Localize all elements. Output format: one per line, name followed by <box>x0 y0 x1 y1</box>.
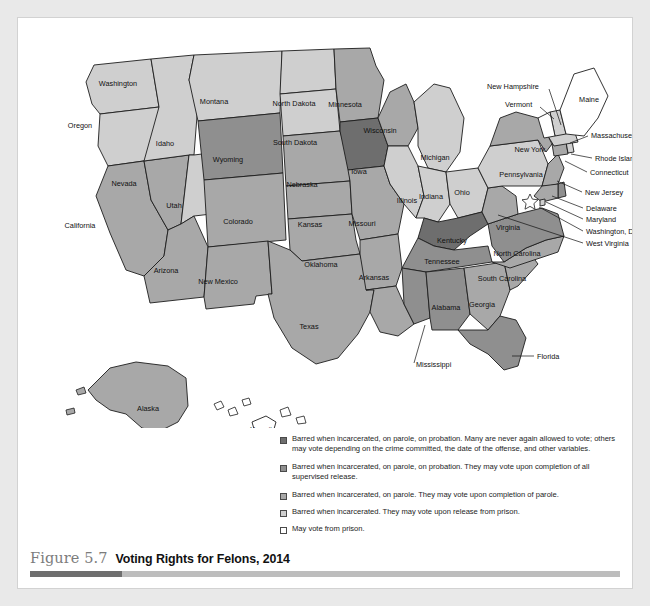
map-label-south-carolina: South Carolina <box>478 274 527 283</box>
map-label-alaska: Alaska <box>137 404 160 413</box>
state-wyoming[interactable] <box>198 113 283 180</box>
state-minnesota[interactable] <box>334 48 384 122</box>
figure-title: Voting Rights for Felons, 2014 <box>116 552 290 566</box>
map-label-wisconsin: Wisconsin <box>363 126 396 135</box>
map-label-vermont: Vermont <box>505 100 532 109</box>
map-label-new-hampshire: New Hampshire <box>487 82 539 91</box>
legend-label: Barred when incarcerated. They may vote … <box>292 507 520 517</box>
map-label-utah: Utah <box>166 201 181 210</box>
map-label-nevada: Nevada <box>111 179 137 188</box>
map-label-washington: Washington <box>99 79 137 88</box>
state-north-dakota[interactable] <box>280 49 336 94</box>
map-label-massachusetts: Massachusetts <box>591 131 632 140</box>
map-label-north-carolina: North Carolina <box>493 249 541 258</box>
leader-line <box>552 196 583 208</box>
state-maryland[interactable] <box>534 184 558 202</box>
hawaiian-island <box>280 407 291 417</box>
map-label-iowa: Iowa <box>351 167 367 176</box>
us-choropleth-map: WashingtonOregonIdahoMontanaNevadaUtahCa… <box>18 18 632 428</box>
aleutian-island <box>76 387 86 395</box>
map-label-maryland: Maryland <box>586 215 616 224</box>
map-label-rhode-island: Rhode Island <box>595 154 632 163</box>
map-label-nebraska: Nebraska <box>286 180 318 189</box>
leader-line <box>565 161 587 172</box>
state-montana[interactable] <box>189 51 282 121</box>
map-label-washington-d-c: Washington, D.C. <box>586 227 632 236</box>
map-label-michigan: Michigan <box>420 153 449 162</box>
map-label-ohio: Ohio <box>454 188 469 197</box>
caption-rule-dark-segment <box>30 571 122 577</box>
map-label-arkansas: Arkansas <box>359 273 390 282</box>
leader-line <box>571 154 592 158</box>
caption-rule-light-segment <box>122 571 620 577</box>
figure-caption-block: Figure 5.7 Voting Rights for Felons, 201… <box>18 540 632 588</box>
map-label-tennessee: Tennessee <box>424 257 459 266</box>
figure-card: WashingtonOregonIdahoMontanaNevadaUtahCa… <box>17 17 633 589</box>
map-label-mississippi: Mississippi <box>416 360 452 369</box>
hawaiian-island <box>214 401 224 410</box>
legend-swatch <box>280 527 287 534</box>
map-label-west-virginia: West Virginia <box>586 239 630 248</box>
map-label-connecticut: Connecticut <box>590 168 629 177</box>
legend-item: Barred when incarcerated, on parole. The… <box>280 490 625 500</box>
legend-item: Barred when incarcerated. They may vote … <box>280 507 625 517</box>
map-label-indiana: Indiana <box>419 192 444 201</box>
legend-swatch <box>280 493 287 500</box>
map-label-oklahoma: Oklahoma <box>304 260 338 269</box>
hawaiian-island <box>296 416 306 424</box>
legend-label: Barred when incarcerated, on parole, on … <box>292 434 625 455</box>
legend-item: Barred when incarcerated, on parole, on … <box>280 434 625 455</box>
legend-item: May vote from prison. <box>280 524 625 534</box>
map-label-california: California <box>65 221 97 230</box>
map-label-pennsylvania: Pennsylvania <box>499 170 543 179</box>
state-alabama[interactable] <box>426 268 470 330</box>
map-label-georgia: Georgia <box>469 300 496 309</box>
map-label-delaware: Delaware <box>586 204 617 213</box>
map-label-illinois: Illinois <box>397 196 418 205</box>
state-alaska[interactable] <box>88 362 188 428</box>
legend-label: Barred when incarcerated, on parole, on … <box>292 462 625 483</box>
map-label-florida: Florida <box>537 352 560 361</box>
hawaiian-island <box>242 398 251 406</box>
map-label-texas: Texas <box>299 322 318 331</box>
map-label-virginia: Virginia <box>496 223 521 232</box>
map-label-idaho: Idaho <box>156 139 174 148</box>
map-label-minnesota: Minnesota <box>328 100 363 109</box>
map-label-south-dakota: South Dakota <box>273 138 318 147</box>
map-label-kentucky: Kentucky <box>437 236 467 245</box>
map-label-wyoming: Wyoming <box>213 155 243 164</box>
map-legend: Barred when incarcerated, on parole, on … <box>280 434 625 542</box>
map-label-new-mexico: New Mexico <box>198 277 238 286</box>
hawaiian-island <box>228 407 238 416</box>
map-label-kansas: Kansas <box>298 220 323 229</box>
map-label-colorado: Colorado <box>223 217 253 226</box>
map-label-hawaii: Hawaii <box>250 425 272 428</box>
aleutian-island <box>66 408 75 415</box>
legend-item: Barred when incarcerated, on parole, on … <box>280 462 625 483</box>
figure-number: Figure 5.7 <box>30 550 108 566</box>
map-label-missouri: Missouri <box>348 219 376 228</box>
state-new-mexico[interactable] <box>204 241 272 309</box>
state-washington-d-c[interactable] <box>540 199 545 206</box>
map-label-new-jersey: New Jersey <box>585 188 623 197</box>
legend-swatch <box>280 437 287 444</box>
legend-swatch <box>280 465 287 472</box>
caption-line: Figure 5.7 Voting Rights for Felons, 201… <box>30 550 290 566</box>
map-label-alabama: Alabama <box>432 303 462 312</box>
map-label-montana: Montana <box>200 97 229 106</box>
map-label-north-dakota: North Dakota <box>273 99 317 108</box>
map-label-oregon: Oregon <box>68 121 92 130</box>
map-label-maine: Maine <box>579 95 599 104</box>
map-label-new-york: New York <box>515 145 546 154</box>
state-south-dakota[interactable] <box>280 89 340 136</box>
state-colorado[interactable] <box>204 173 286 247</box>
legend-swatch <box>280 510 287 517</box>
legend-label: May vote from prison. <box>292 524 365 534</box>
map-region: WashingtonOregonIdahoMontanaNevadaUtahCa… <box>18 18 632 428</box>
caption-rule <box>30 571 620 577</box>
legend-label: Barred when incarcerated, on parole. The… <box>292 490 559 500</box>
map-label-arizona: Arizona <box>154 266 180 275</box>
leader-line <box>414 325 425 363</box>
